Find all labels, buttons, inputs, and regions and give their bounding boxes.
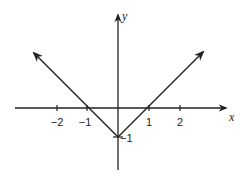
left-branch bbox=[34, 53, 118, 137]
graph-figure: −2 −1 1 2 −1 x y bbox=[0, 0, 245, 177]
x-tick-label-2: 2 bbox=[177, 116, 183, 128]
right-branch bbox=[118, 52, 203, 137]
x-axis-label: x bbox=[228, 110, 235, 124]
y-tick-label-neg1: −1 bbox=[120, 132, 133, 144]
y-axis-label: y bbox=[121, 9, 128, 23]
x-tick-label-neg1: −1 bbox=[79, 116, 92, 128]
x-tick-label-neg2: −2 bbox=[51, 116, 64, 128]
x-tick-label-1: 1 bbox=[146, 116, 152, 128]
